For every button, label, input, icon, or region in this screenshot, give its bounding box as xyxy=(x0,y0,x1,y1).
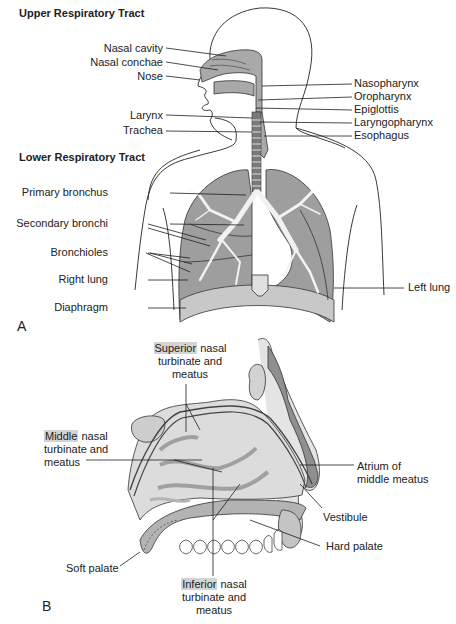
superior-rest: nasal xyxy=(197,342,226,354)
inferior-line2: turbinate and xyxy=(168,591,260,604)
label-vestibule: Vestibule xyxy=(323,511,368,524)
middle-line2: turbinate and xyxy=(44,443,108,456)
middle-highlight: Middle xyxy=(44,430,78,442)
label-bronchioles: Bronchioles xyxy=(51,246,108,259)
superior-highlight: Superior xyxy=(154,342,198,354)
label-oropharynx: Oropharynx xyxy=(354,90,411,103)
panel-a-letter: A xyxy=(17,318,26,334)
middle-line3: meatus xyxy=(44,456,108,469)
label-left-lung: Left lung xyxy=(408,281,450,294)
upper-respiratory-heading: Upper Respiratory Tract xyxy=(19,7,144,19)
label-atrium-middle-meatus: Atrium of middle meatus xyxy=(357,460,429,486)
label-esophagus: Esophagus xyxy=(354,129,409,142)
label-secondary-bronchi: Secondary bronchi xyxy=(16,217,108,230)
teeth xyxy=(180,529,282,554)
middle-rest: nasal xyxy=(78,430,107,442)
trachea xyxy=(252,112,261,192)
label-epiglottis: Epiglottis xyxy=(354,103,399,116)
label-superior-turbinate: Superior nasal turbinate and meatus xyxy=(145,342,235,381)
label-inferior-turbinate: Inferior nasal turbinate and meatus xyxy=(168,578,260,617)
respiratory-anatomy-figure: Upper Respiratory Tract Lower Respirator… xyxy=(0,0,456,624)
label-trachea: Trachea xyxy=(123,124,163,137)
label-primary-bronchus: Primary bronchus xyxy=(22,186,108,199)
panel-b-letter: B xyxy=(42,598,51,614)
superior-line2: turbinate and xyxy=(145,355,235,368)
superior-line3: meatus xyxy=(145,368,235,381)
lower-respiratory-heading: Lower Respiratory Tract xyxy=(19,151,145,163)
label-right-lung: Right lung xyxy=(58,273,108,286)
inferior-rest: nasal xyxy=(217,578,246,590)
inferior-line3: meatus xyxy=(168,604,260,617)
label-diaphragm: Diaphragm xyxy=(54,301,108,314)
label-nose: Nose xyxy=(137,70,163,83)
atrium-line2: middle meatus xyxy=(357,473,429,486)
atrium-line1: Atrium of xyxy=(357,460,429,473)
label-nasopharynx: Nasopharynx xyxy=(354,77,419,90)
label-middle-turbinate: Middle nasal turbinate and meatus xyxy=(44,430,108,469)
inferior-highlight: Inferior xyxy=(181,578,217,590)
label-larynx: Larynx xyxy=(130,109,163,122)
label-hard-palate: Hard palate xyxy=(326,540,383,553)
label-nasal-cavity: Nasal cavity xyxy=(104,42,163,55)
label-soft-palate: Soft palate xyxy=(66,562,119,575)
label-laryngopharynx: Laryngopharynx xyxy=(354,116,433,129)
label-nasal-conchae: Nasal conchae xyxy=(90,56,163,69)
